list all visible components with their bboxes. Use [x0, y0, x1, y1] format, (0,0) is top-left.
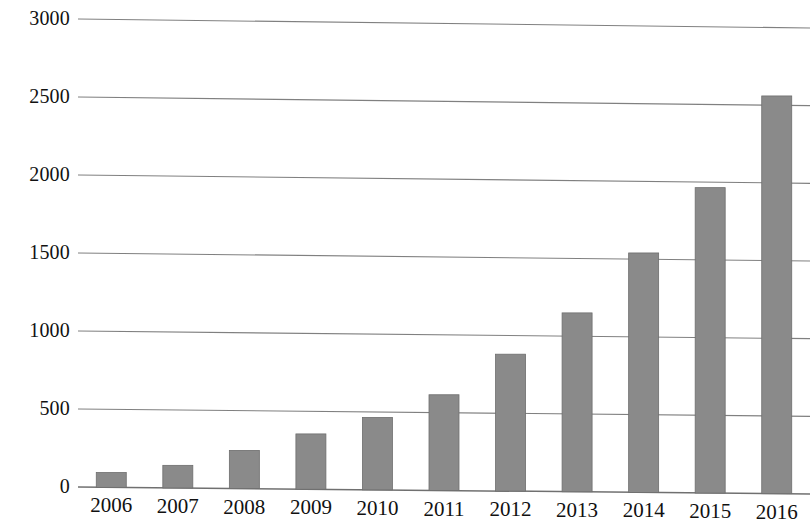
- bar-chart: 300025002000150010005000 200620072008200…: [0, 0, 810, 526]
- x-axis-tick-labels: 2006200720082009201020112012201320142015…: [0, 0, 810, 526]
- x-axis-tick-label: 2011: [411, 498, 477, 520]
- x-axis-tick-label: 2014: [611, 499, 677, 521]
- x-axis-tick-label: 2007: [145, 495, 211, 517]
- x-axis-tick-label: 2015: [677, 500, 743, 522]
- x-axis-tick-label: 2010: [344, 497, 410, 519]
- x-axis-tick-label: 2009: [278, 496, 344, 518]
- x-axis-tick-label: 2008: [211, 496, 277, 518]
- x-axis-tick-label: 2013: [544, 499, 610, 521]
- x-axis-tick-label: 2012: [478, 498, 544, 520]
- x-axis-tick-label: 2006: [78, 494, 144, 516]
- x-axis-tick-label: 2016: [744, 501, 810, 523]
